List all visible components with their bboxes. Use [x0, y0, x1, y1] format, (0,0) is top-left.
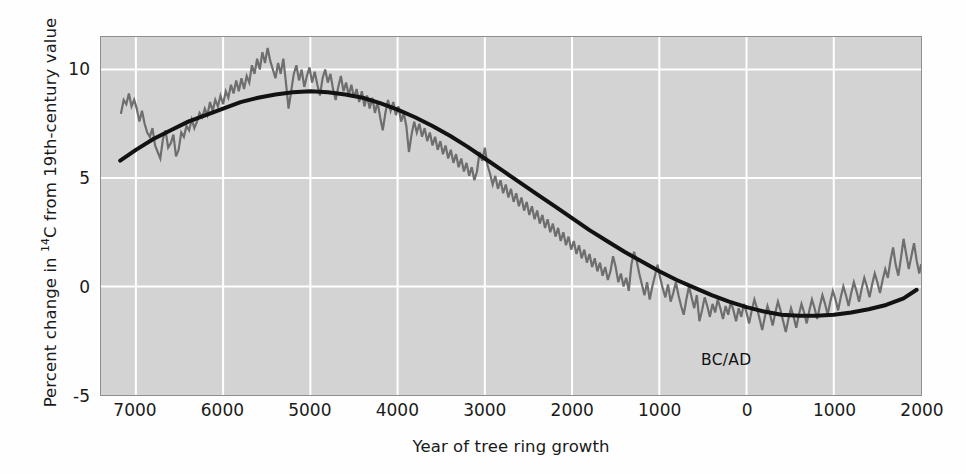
- gridlines: [101, 37, 921, 395]
- y-tick-label: 10: [44, 59, 90, 79]
- x-tick-label: 6000: [201, 400, 244, 420]
- x-tick-label: 2000: [900, 400, 943, 420]
- x-axis-ticks: 7000600050004000300020001000010002000: [0, 400, 966, 430]
- x-tick-label: 4000: [376, 400, 419, 420]
- series-line-measured: [121, 48, 921, 332]
- data-series-layer: [120, 48, 921, 332]
- x-axis-label: Year of tree ring growth: [100, 437, 922, 456]
- plot-area: BC/AD: [100, 36, 922, 396]
- y-tick-label: 5: [44, 168, 90, 188]
- x-tick-label: 2000: [551, 400, 594, 420]
- x-tick-label: 5000: [288, 400, 331, 420]
- figure-container: Percent change in 14C from 19th-century …: [0, 0, 966, 474]
- x-tick-label: 1000: [813, 400, 856, 420]
- x-tick-label: 1000: [638, 400, 681, 420]
- x-tick-label: 0: [742, 400, 753, 420]
- y-tick-label: 0: [44, 277, 90, 297]
- chart-svg: [101, 37, 921, 395]
- x-tick-label: 3000: [463, 400, 506, 420]
- bc-ad-annotation: BC/AD: [701, 351, 751, 369]
- x-tick-label: 7000: [113, 400, 156, 420]
